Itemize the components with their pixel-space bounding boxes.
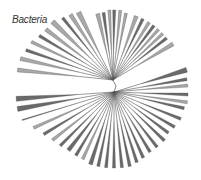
lower-clade xyxy=(16,67,188,168)
clade-wedge xyxy=(135,104,175,128)
upper-clade xyxy=(17,10,174,80)
clade-wedge xyxy=(113,119,116,168)
branch-line xyxy=(92,60,113,80)
tree-branches xyxy=(113,80,116,92)
root-branch xyxy=(113,80,116,86)
phylogenetic-tree xyxy=(0,0,201,180)
clade-wedge xyxy=(140,84,188,90)
root-branch xyxy=(114,86,116,92)
clade-wedge xyxy=(16,94,80,101)
clade-wedge xyxy=(129,28,160,62)
clade-wedge xyxy=(17,68,79,77)
branch-line xyxy=(113,62,129,80)
clade-wedge xyxy=(117,118,124,167)
clade-wedge xyxy=(140,93,188,96)
clade-wedge xyxy=(113,10,116,56)
clade-wedge xyxy=(105,118,112,167)
